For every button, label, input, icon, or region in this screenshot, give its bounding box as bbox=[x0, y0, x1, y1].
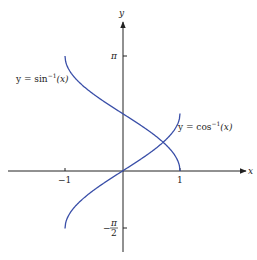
curve2-label: y = cos−1(x) bbox=[177, 120, 233, 132]
y-axis-label: y bbox=[118, 8, 125, 18]
x-axis-label: x bbox=[248, 166, 253, 176]
chart-canvas: x y −1 1 π − π 2 y = sin−1(x) y = cos−1(… bbox=[0, 0, 257, 260]
y-tick-label-pi: π bbox=[110, 51, 118, 61]
x-tick-label-1: 1 bbox=[177, 175, 183, 185]
curve1-label: y = sin−1(x) bbox=[15, 72, 69, 84]
x-tick-label-neg1: −1 bbox=[58, 175, 71, 185]
svg-text:−: − bbox=[103, 223, 111, 233]
svg-text:π: π bbox=[110, 218, 118, 228]
y-tick-label-neg-pi-half: − π 2 bbox=[103, 218, 118, 238]
svg-text:2: 2 bbox=[111, 228, 117, 238]
